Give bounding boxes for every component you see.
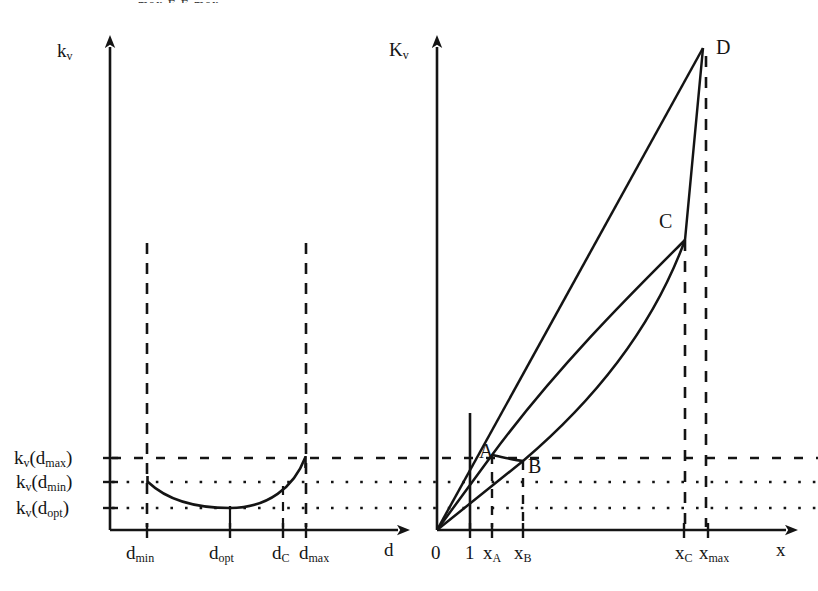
level-connector-lines [112, 458, 818, 508]
arc-A-to-B [492, 455, 523, 461]
right-xlabel-xmax: xmax [699, 543, 729, 564]
left-xlabel-dC: dC [272, 543, 290, 564]
left-xlabel-dmax: dmax [299, 543, 329, 564]
right-x-axis-label: x [776, 540, 786, 559]
right-xlabel-1: 1 [465, 543, 475, 562]
left-y-axis-label: kv [57, 41, 73, 62]
right-xlabel-xC: xC [675, 543, 693, 564]
truncated-header-text: max E E max [138, 0, 388, 3]
point-label-D: D [716, 37, 730, 57]
right-y-axis-label: Kv [389, 40, 409, 61]
point-label-A: A [479, 441, 493, 461]
right-panel [437, 47, 786, 538]
left-xlabel-dmin: dmin [126, 543, 154, 564]
point-label-C: C [659, 211, 672, 231]
two-panel-kv-figure [0, 0, 818, 591]
left-ylabel-kv-dopt: kv(dopt) [16, 498, 69, 519]
point-label-B: B [528, 456, 541, 476]
right-xlabel-0: 0 [431, 543, 441, 562]
right-xlabel-xB: xB [514, 543, 532, 564]
right-xlabel-xA: xA [483, 543, 501, 564]
left-panel [103, 47, 398, 538]
left-x-axis-label: d [384, 540, 394, 559]
left-xlabel-dopt: dopt [209, 543, 234, 564]
left-ylabel-kv-dmax: kv(dmax) [14, 448, 72, 469]
curve-origin-B-to-C [437, 240, 685, 530]
left-ylabel-kv-dmin: kv(dmin) [16, 472, 72, 493]
curve-origin-A-to-C [437, 240, 685, 530]
